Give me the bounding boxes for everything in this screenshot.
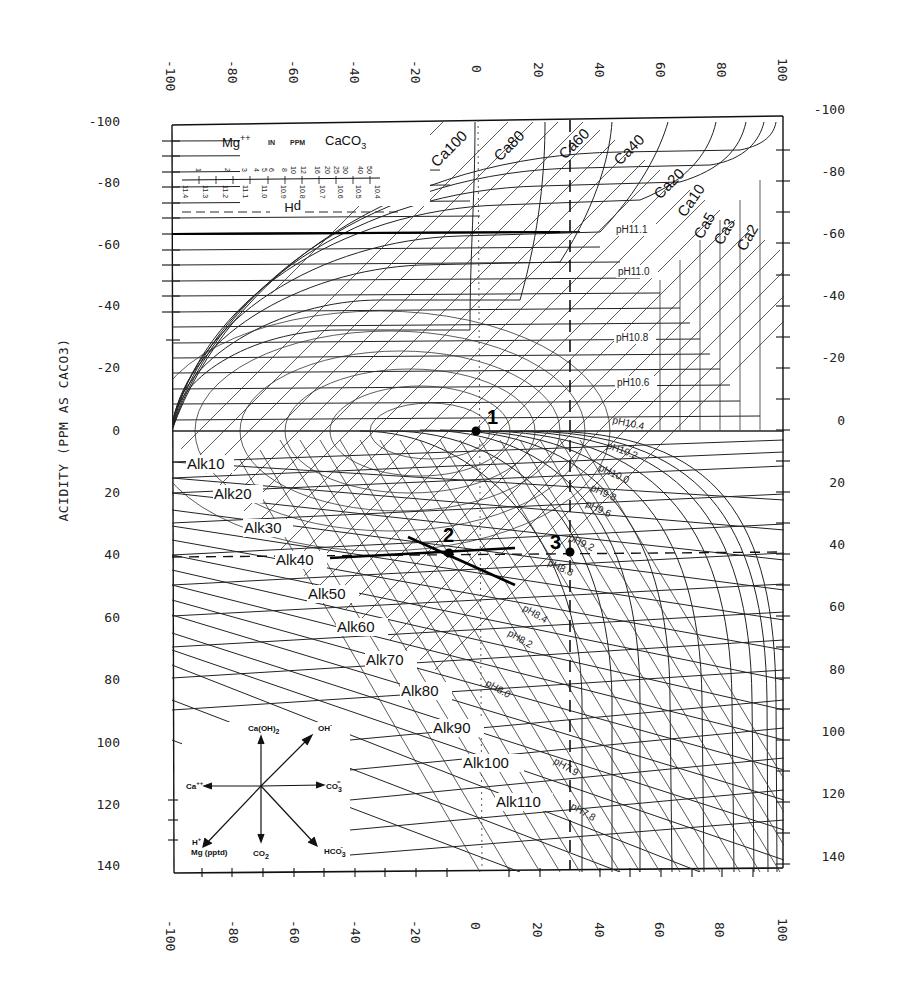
svg-text:10: 10 (290, 166, 297, 174)
svg-text:Alk50: Alk50 (308, 585, 346, 602)
svg-text:pH8.0: pH8.0 (484, 677, 513, 700)
svg-text:Alk110: Alk110 (496, 793, 541, 810)
svg-text:Alk60: Alk60 (337, 618, 375, 635)
svg-text:-40: -40 (348, 920, 363, 943)
svg-text:Ca100: Ca100 (427, 127, 470, 170)
diagonal-hatching (90, 10, 825, 670)
svg-text:-100: -100 (163, 920, 178, 951)
svg-text:-80: -80 (226, 920, 241, 943)
svg-text:pH10.8: pH10.8 (616, 332, 649, 343)
svg-text:Alk20: Alk20 (214, 485, 252, 502)
svg-text:80: 80 (829, 662, 845, 677)
svg-text:10.8: 10.8 (299, 185, 306, 199)
svg-text:0: 0 (112, 423, 120, 438)
point-1-marker (472, 427, 481, 436)
svg-text:12: 12 (300, 166, 307, 174)
svg-text:16: 16 (314, 166, 321, 174)
legend-oh: OH- (318, 722, 332, 733)
svg-text:5: 5 (261, 168, 268, 172)
svg-text:10.4: 10.4 (374, 185, 381, 199)
svg-text:-60: -60 (286, 60, 301, 83)
point-3-marker (566, 548, 575, 557)
svg-text:11.0: 11.0 (261, 185, 268, 198)
svg-text:80: 80 (712, 922, 727, 938)
svg-text:100: 100 (775, 58, 790, 81)
svg-text:40: 40 (592, 922, 607, 938)
svg-text:pH11.1: pH11.1 (616, 224, 648, 235)
data-points: 1 2 3 (443, 406, 575, 558)
svg-text:80: 80 (104, 672, 120, 687)
svg-text:Alk40: Alk40 (276, 551, 314, 568)
svg-text:40: 40 (592, 62, 607, 78)
svg-text:20: 20 (531, 62, 546, 78)
svg-text:11.3: 11.3 (202, 185, 209, 198)
y-axis-title: ACIDITY (PPM AS CACO3) (56, 338, 71, 521)
svg-text:-100: -100 (163, 60, 178, 91)
legend-mg: Mg (pptd) (191, 848, 228, 857)
svg-text:-80: -80 (822, 164, 845, 179)
svg-text:20: 20 (530, 922, 545, 938)
y-40-dashed-line (172, 552, 784, 557)
svg-text:pH8.8: pH8.8 (546, 557, 575, 578)
svg-text:-20: -20 (408, 60, 423, 83)
svg-text:120: 120 (97, 797, 120, 812)
svg-text:40: 40 (357, 166, 364, 174)
svg-text:-80: -80 (97, 175, 120, 190)
svg-text:-60: -60 (822, 226, 845, 241)
svg-text:100: 100 (97, 735, 120, 750)
svg-text:-100: -100 (89, 114, 120, 129)
svg-text:-20: -20 (822, 350, 845, 365)
svg-text:80: 80 (714, 62, 729, 78)
scale-ppm-label: PPM (290, 139, 305, 146)
svg-text:140: 140 (822, 849, 845, 864)
svg-text:pH7.8: pH7.8 (569, 800, 598, 823)
legend-co3: CO3= (326, 779, 342, 793)
right-axis-ticks: -100 -80 -60 -40 -20 0 20 40 60 80 100 1… (814, 102, 845, 864)
svg-text:Alk80: Alk80 (401, 682, 439, 699)
svg-text:Alk30: Alk30 (244, 519, 282, 536)
svg-text:11.1: 11.1 (242, 185, 249, 198)
svg-text:11.4: 11.4 (182, 185, 189, 198)
svg-text:pH11.0: pH11.0 (618, 266, 650, 277)
point-2-label: 2 (443, 524, 454, 546)
svg-text:0: 0 (468, 922, 483, 930)
legend-hco3: HCO3- (324, 844, 346, 858)
svg-text:40: 40 (829, 537, 845, 552)
svg-text:pH8.2: pH8.2 (506, 627, 535, 650)
svg-text:30: 30 (342, 166, 349, 174)
svg-text:6: 6 (268, 168, 275, 172)
point-3-label: 3 (550, 531, 561, 553)
svg-text:-100: -100 (814, 102, 845, 117)
svg-text:120: 120 (822, 786, 845, 801)
calcium-labels: Ca100 Ca80 Ca60 Ca40 Ca20 Ca10 Ca5 Ca3 C… (427, 125, 761, 254)
svg-text:60: 60 (652, 922, 667, 938)
svg-text:10.6: 10.6 (337, 185, 344, 199)
svg-text:Alk10: Alk10 (187, 455, 225, 472)
svg-text:20: 20 (104, 485, 120, 500)
svg-text:-60: -60 (287, 920, 302, 943)
svg-text:-80: -80 (225, 60, 240, 83)
top-axis-ticks: -100 -80 -60 -40 -20 0 20 40 60 80 100 (163, 58, 790, 91)
svg-text:100: 100 (775, 918, 790, 941)
svg-text:Alk70: Alk70 (366, 651, 404, 668)
svg-text:-20: -20 (408, 920, 423, 943)
svg-text:Ca40: Ca40 (610, 131, 647, 168)
svg-text:10.7: 10.7 (319, 185, 326, 199)
mg-bold-line (172, 232, 560, 234)
svg-text:10.9: 10.9 (280, 185, 287, 199)
point-2-marker (445, 549, 454, 558)
svg-text:8: 8 (281, 168, 288, 172)
svg-text:Alk90: Alk90 (433, 719, 471, 736)
svg-text:20: 20 (829, 475, 845, 490)
svg-text:100: 100 (822, 724, 845, 739)
svg-text:60: 60 (829, 599, 845, 614)
svg-text:2: 2 (224, 168, 231, 172)
scale-ph-title: pH (284, 200, 301, 215)
svg-text:-40: -40 (822, 288, 845, 303)
svg-text:Ca2: Ca2 (733, 221, 761, 253)
svg-text:0: 0 (469, 65, 484, 73)
svg-text:Alk100: Alk100 (463, 754, 509, 771)
point-1-label: 1 (487, 406, 498, 428)
bottom-axis-ticks: -100 -80 -60 -40 -20 0 20 40 60 80 100 (163, 918, 790, 951)
svg-text:40: 40 (104, 547, 120, 562)
